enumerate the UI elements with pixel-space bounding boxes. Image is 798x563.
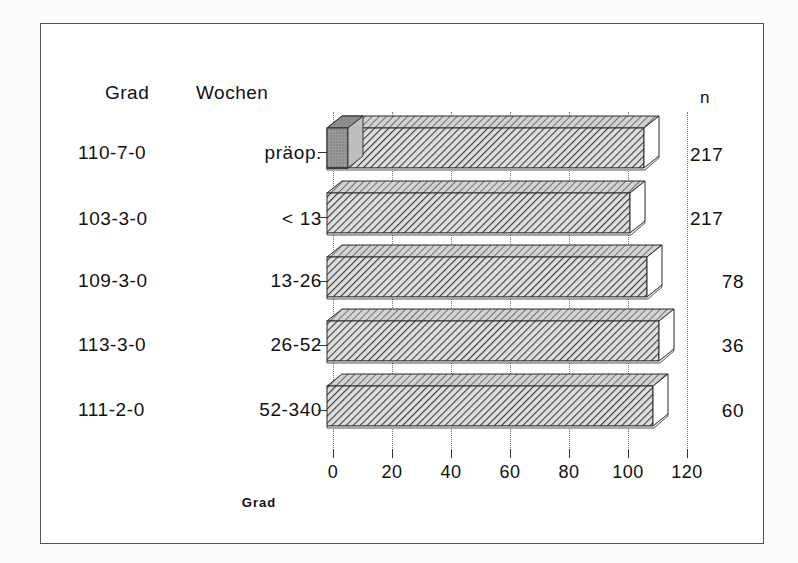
gridline-60 [510, 112, 511, 450]
row-label-wochen-3: 26-52 [196, 334, 322, 356]
row-label-wochen-0: präop. [196, 142, 322, 164]
xtick-label-80: 80 [546, 462, 592, 483]
row-stub-4 [318, 410, 327, 411]
row-value-n-0: 217 [690, 144, 752, 166]
row-value-n-2: 78 [690, 271, 744, 293]
xtick-label-60: 60 [487, 462, 533, 483]
row-label-wochen-1: < 13 [196, 208, 322, 230]
gridline-100 [628, 112, 629, 450]
column-header-grad: Grad [105, 82, 149, 104]
xtick-label-100: 100 [605, 462, 651, 483]
xtick-label-40: 40 [428, 462, 474, 483]
xtick-label-20: 20 [369, 462, 415, 483]
tickmark-100 [628, 449, 629, 458]
row-stub-1 [318, 217, 327, 218]
gridline-20 [392, 112, 393, 450]
tickmark-40 [451, 449, 452, 458]
column-header-n: n [700, 88, 710, 108]
gridline-80 [569, 112, 570, 450]
row-value-n-1: 217 [690, 208, 752, 230]
xaxis-title: Grad [0, 495, 798, 510]
column-header-wochen: Wochen [196, 82, 268, 104]
row-stub-0 [318, 152, 327, 153]
row-value-n-4: 60 [690, 400, 744, 422]
row-stub-3 [318, 345, 327, 346]
tickmark-20 [392, 449, 393, 458]
gridline-40 [451, 112, 452, 450]
row-value-n-3: 36 [690, 335, 744, 357]
xtick-label-120: 120 [664, 462, 710, 483]
gridline-120 [687, 112, 688, 450]
tickmark-80 [569, 449, 570, 458]
tickmark-120 [687, 449, 688, 458]
row-label-wochen-4: 52-340 [196, 399, 322, 421]
figure-canvas: Grad Wochen n 110-7-0 103-3-0 109-3-0 11… [0, 0, 798, 563]
tickmark-60 [510, 449, 511, 458]
tickmark-0 [333, 449, 334, 458]
row-stub-2 [318, 281, 327, 282]
gridline-0 [333, 112, 334, 450]
xtick-label-0: 0 [310, 462, 356, 483]
row-label-wochen-2: 13-26 [196, 270, 322, 292]
